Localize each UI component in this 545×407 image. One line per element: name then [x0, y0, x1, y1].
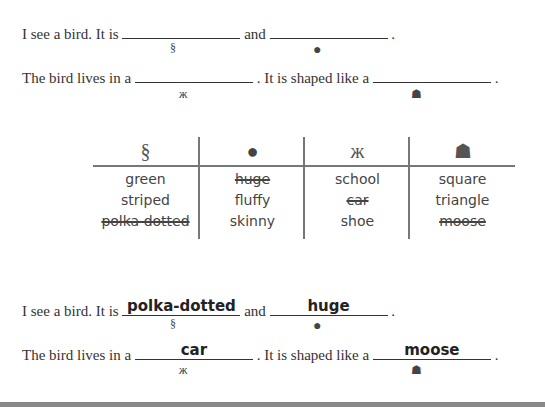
blank-1-filled[interactable]: polka-dotted — [122, 299, 240, 316]
column-butterfly: ж school car shoe — [305, 137, 410, 232]
sentence-text: . It is shaped like a — [257, 347, 369, 363]
sentence-2-filled: The bird lives in a car . It is shaped l… — [22, 343, 498, 364]
word-green[interactable]: green — [93, 169, 198, 190]
column-seahorse: § green striped polka dotted — [93, 137, 198, 232]
sentence-text: . It is shaped like a — [257, 70, 369, 86]
footer-bar — [0, 402, 545, 407]
word-skinny[interactable]: skinny — [200, 211, 305, 232]
word-fluffy[interactable]: fluffy — [200, 190, 305, 211]
answer-2: huge — [270, 297, 388, 315]
hedgehog-icon: ☗ — [411, 88, 422, 100]
sentence-text: and — [244, 26, 266, 42]
sentence-text: . — [495, 70, 499, 86]
blank-3-empty[interactable] — [135, 66, 253, 83]
word-striped[interactable]: striped — [93, 190, 198, 211]
sentence-text: . — [391, 303, 395, 319]
word-shoe[interactable]: shoe — [305, 211, 410, 232]
word-moose-crossed[interactable]: moose — [410, 211, 515, 232]
blank-4-empty[interactable] — [373, 66, 491, 83]
blank-2-empty[interactable] — [270, 22, 388, 39]
seahorse-icon: § — [170, 318, 176, 330]
word-triangle[interactable]: triangle — [410, 190, 515, 211]
sentence-text: I see a bird. It is — [22, 303, 119, 319]
column-hedgehog: ☗ square triangle moose — [410, 137, 515, 232]
butterfly-icon: ж — [305, 137, 410, 165]
sentence-text: The bird lives in a — [22, 347, 131, 363]
word-square[interactable]: square — [410, 169, 515, 190]
blank-1-empty[interactable] — [122, 22, 240, 39]
word-bank-table: § green striped polka dotted ● huge fluf… — [93, 137, 515, 239]
sentence-text: The bird lives in a — [22, 70, 131, 86]
sentence-1-empty: I see a bird. It is and . — [22, 22, 395, 43]
sentence-1-filled: I see a bird. It is polka-dotted and hug… — [22, 299, 395, 320]
word-huge-crossed[interactable]: huge — [200, 169, 305, 190]
column-tomato: ● huge fluffy skinny — [200, 137, 305, 232]
blank-3-filled[interactable]: car — [135, 343, 253, 360]
blank-4-filled[interactable]: moose — [373, 343, 491, 360]
tomato-icon: ● — [313, 320, 321, 332]
tomato-icon: ● — [313, 44, 321, 56]
sentence-text: . — [495, 347, 499, 363]
butterfly-icon: ж — [179, 88, 187, 100]
hedgehog-icon: ☗ — [410, 137, 515, 165]
sentence-text: and — [244, 303, 266, 319]
butterfly-icon: ж — [179, 364, 187, 376]
word-school[interactable]: school — [305, 169, 410, 190]
sentence-2-empty: The bird lives in a . It is shaped like … — [22, 66, 498, 87]
sentence-text: . — [391, 26, 395, 42]
sentence-text: I see a bird. It is — [22, 26, 119, 42]
seahorse-icon: § — [93, 137, 198, 165]
word-polka-dotted-crossed[interactable]: polka dotted — [93, 211, 198, 232]
tomato-icon: ● — [200, 137, 305, 165]
answer-3: car — [135, 341, 253, 359]
word-car-crossed[interactable]: car — [305, 190, 410, 211]
blank-2-filled[interactable]: huge — [270, 299, 388, 316]
answer-4: moose — [373, 341, 491, 359]
seahorse-icon: § — [170, 42, 176, 54]
hedgehog-icon: ☗ — [411, 364, 422, 376]
answer-1: polka-dotted — [122, 297, 240, 315]
